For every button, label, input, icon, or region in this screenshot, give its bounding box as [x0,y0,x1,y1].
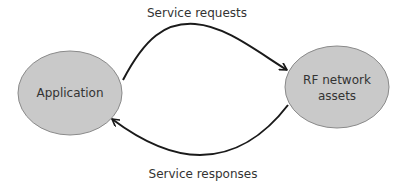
application-label: Application [36,86,103,100]
service-requests-arrow [123,24,287,80]
rf-network-assets-ellipse [285,46,389,128]
node-rf-network-assets: RF network assets [285,46,389,128]
rf-network-assets-label-line2: assets [318,89,356,103]
service-responses-label: Service responses [149,167,258,181]
service-responses-arrow [112,105,288,155]
diagram-canvas: Application RF network assets Service re… [0,0,405,190]
edge-service-requests: Service requests [123,6,287,80]
service-requests-label: Service requests [147,6,247,20]
node-application: Application [18,51,122,135]
rf-network-assets-label-line1: RF network [303,73,371,87]
edge-service-responses: Service responses [112,105,288,181]
